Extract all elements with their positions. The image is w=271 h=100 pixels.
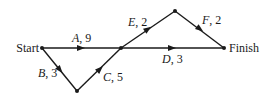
- edge-f-label: F, 2: [201, 13, 221, 27]
- edge-b-label: B, 3: [38, 66, 57, 80]
- edge-d-label: D, 3: [161, 52, 183, 66]
- arrow-d-icon: [168, 45, 176, 51]
- node-n1: [75, 89, 79, 93]
- edge-a-label: A, 9: [71, 31, 91, 45]
- node-start: [40, 46, 44, 50]
- arrow-a-icon: [77, 45, 85, 51]
- finish-label: Finish: [229, 41, 259, 55]
- edge-c-label: C, 5: [103, 70, 123, 84]
- start-label: Start: [16, 41, 39, 55]
- edge-e-label: E, 2: [127, 15, 147, 29]
- node-n3: [173, 9, 177, 13]
- activity-network-diagram: Start Finish A, 9 B, 3 C, 5 D, 3 E, 2 F,…: [0, 0, 271, 100]
- node-n2: [119, 46, 123, 50]
- node-finish: [222, 46, 226, 50]
